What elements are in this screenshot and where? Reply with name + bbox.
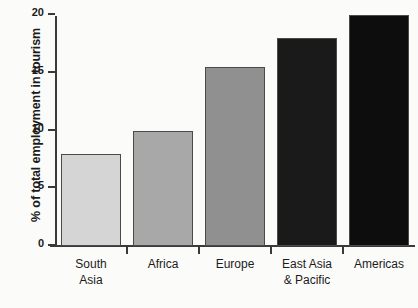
x-axis-label: Africa [127, 256, 199, 272]
x-axis-label: Europe [199, 256, 271, 272]
bar [205, 67, 265, 246]
x-axis-label: SouthAsia [55, 256, 127, 288]
y-axis-tick-label: 10 [32, 122, 44, 134]
x-axis-label-line: Americas [354, 257, 404, 271]
y-axis-tick-label: 0 [38, 237, 44, 249]
x-axis-label-line: Africa [148, 257, 179, 271]
x-axis-tick [342, 247, 344, 254]
x-axis-label-line: East Asia [282, 257, 332, 271]
y-axis-tick: 15 [48, 71, 55, 73]
x-axis-label-line: & Pacific [271, 272, 343, 288]
y-axis-tick: 20 [48, 13, 55, 15]
y-axis-tick: 0 [48, 244, 55, 246]
y-axis-line [55, 16, 57, 247]
x-axis-tick [126, 247, 128, 254]
x-axis-label-line: Asia [55, 272, 127, 288]
bar-chart-figure: % of total employment in tourism 0510152… [0, 0, 418, 308]
plot-area: 05101520 [55, 14, 415, 247]
y-axis-tick-label: 20 [32, 6, 44, 18]
bar [277, 38, 337, 246]
bar [61, 154, 121, 246]
x-axis-tick [270, 247, 272, 254]
x-axis-label-line: Europe [216, 257, 255, 271]
bar [133, 131, 193, 247]
x-axis-tick [198, 247, 200, 254]
y-axis-tick: 10 [48, 129, 55, 131]
x-axis-label: East Asia& Pacific [271, 256, 343, 288]
y-axis-tick: 5 [48, 186, 55, 188]
y-axis-tick-label: 15 [32, 64, 44, 76]
x-axis-labels: SouthAsiaAfricaEuropeEast Asia& PacificA… [55, 256, 415, 302]
bar [349, 15, 409, 246]
y-axis-tick-label: 5 [38, 179, 44, 191]
x-axis-label-line: South [75, 257, 106, 271]
x-axis-label: Americas [343, 256, 415, 272]
